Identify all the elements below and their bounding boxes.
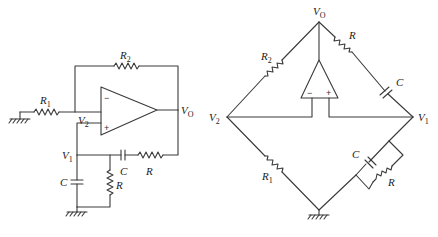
label-r1: R1 bbox=[39, 94, 51, 109]
opamp-plus-sign-bridge: + bbox=[326, 88, 331, 98]
label-r-top-bridge: R bbox=[348, 29, 356, 41]
label-r-shunt: R bbox=[115, 179, 123, 191]
label-c-top-bridge: C bbox=[396, 76, 404, 88]
label-v2-bridge: V2 bbox=[209, 111, 220, 126]
label-vo-bridge: VO bbox=[313, 5, 326, 20]
label-vo: VO bbox=[181, 104, 194, 119]
ground-icon-bridge bbox=[308, 210, 329, 219]
label-v2: V2 bbox=[78, 114, 89, 129]
resistor-series bbox=[138, 152, 163, 158]
capacitor-series bbox=[121, 150, 125, 160]
opamp-minus-sign: − bbox=[104, 93, 109, 103]
ground-icon-left-r1 bbox=[9, 112, 30, 123]
label-v1: V1 bbox=[62, 149, 73, 164]
label-r1-bridge: R1 bbox=[261, 170, 273, 185]
label-v1-bridge: V1 bbox=[418, 111, 429, 126]
left-circuit: − + R1 R2 V2 bbox=[9, 49, 194, 216]
opamp-plus-sign: + bbox=[104, 123, 109, 133]
wien-bridge-figure: − + R1 R2 V2 bbox=[0, 0, 438, 237]
label-r2: R2 bbox=[119, 49, 131, 64]
capacitor-shunt bbox=[71, 180, 83, 184]
label-r-bottom-bridge: R bbox=[387, 176, 395, 188]
ground-icon-left-bottom bbox=[66, 207, 87, 216]
resistor-shunt bbox=[107, 170, 113, 195]
label-c-series: C bbox=[120, 165, 128, 177]
label-c-bottom-bridge: C bbox=[352, 148, 360, 160]
right-circuit: − + VO R2 R C V2 V1 R1 bbox=[209, 5, 429, 219]
label-r2-bridge: R2 bbox=[260, 50, 272, 65]
opamp-minus-sign-bridge: − bbox=[307, 88, 312, 98]
label-r-series: R bbox=[145, 165, 153, 177]
capacitor-c-bottom-bridge bbox=[365, 157, 376, 168]
resistor-r1 bbox=[34, 109, 59, 115]
label-c-shunt: C bbox=[60, 176, 68, 188]
opamp-left bbox=[101, 87, 157, 135]
